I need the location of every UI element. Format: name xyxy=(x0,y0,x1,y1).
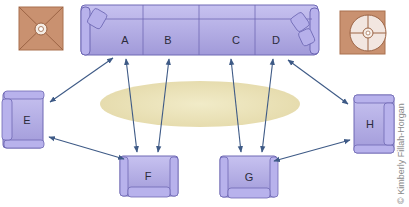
end-table-right xyxy=(340,11,386,54)
end-table-left xyxy=(19,7,63,50)
armchair-g: G xyxy=(220,156,278,198)
seat-label-d: D xyxy=(272,34,280,46)
arrow-e-f xyxy=(49,137,124,159)
seat-label-g: G xyxy=(245,171,254,183)
seat-label-f: F xyxy=(145,170,152,182)
image-credit: © Kimberly Fillah-Horgan xyxy=(396,103,406,204)
armchair-f: F xyxy=(120,156,178,197)
seating-diagram: A B C D E F G H xyxy=(0,0,409,207)
seat-label-e: E xyxy=(23,114,30,126)
arrow-d-h xyxy=(288,60,348,104)
arrow-a-e xyxy=(50,58,113,102)
seat-label-a: A xyxy=(121,34,129,46)
armchair-h: H xyxy=(354,95,394,153)
sectional-sofa: A B C D xyxy=(81,5,319,55)
armchair-e: E xyxy=(2,91,44,148)
seat-label-h: H xyxy=(366,118,374,130)
seat-label-c: C xyxy=(232,34,240,46)
arrow-g-h xyxy=(274,140,350,161)
seat-label-b: B xyxy=(164,34,171,46)
